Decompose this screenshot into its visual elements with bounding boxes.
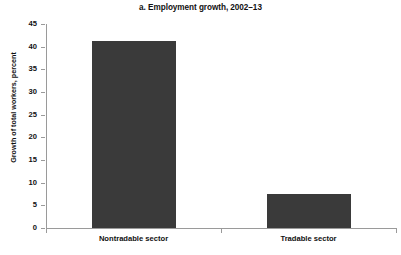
y-axis-tick-mark: [41, 69, 45, 70]
y-axis-tick-label: 15: [0, 155, 37, 164]
plot-area: [46, 24, 396, 228]
y-axis-tick-mark: [41, 92, 45, 93]
y-axis-tick-label: 30: [0, 87, 37, 96]
y-axis-tick-label: 0: [0, 223, 37, 232]
y-axis-tick-label: 20: [0, 132, 37, 141]
chart-figure: a. Employment growth, 2002–13 Growth of …: [0, 0, 401, 255]
y-axis-tick-mark: [41, 228, 45, 229]
x-axis-tick-mark: [46, 229, 47, 233]
y-axis-tick-label: 40: [0, 42, 37, 51]
y-axis-tick-mark: [41, 24, 45, 25]
y-axis-tick-label: 25: [0, 110, 37, 119]
y-axis-tick-mark: [41, 115, 45, 116]
bar[interactable]: [267, 194, 351, 228]
y-axis-tick-label: 10: [0, 178, 37, 187]
y-axis-tick-mark: [41, 137, 45, 138]
y-axis-tick-label: 5: [0, 200, 37, 209]
y-axis-tick-mark: [41, 47, 45, 48]
x-axis-category-label: Nontradable sector: [46, 234, 221, 243]
x-axis-tick-mark: [221, 229, 222, 233]
x-axis-category-label: Tradable sector: [221, 234, 396, 243]
y-axis-tick-mark: [41, 183, 45, 184]
bar[interactable]: [92, 41, 176, 228]
y-axis-tick-label: 35: [0, 64, 37, 73]
y-axis-tick-label: 45: [0, 19, 37, 28]
x-axis-tick-mark: [396, 229, 397, 233]
y-axis-tick-mark: [41, 205, 45, 206]
chart-title: a. Employment growth, 2002–13: [0, 3, 401, 12]
y-axis-tick-mark: [41, 160, 45, 161]
